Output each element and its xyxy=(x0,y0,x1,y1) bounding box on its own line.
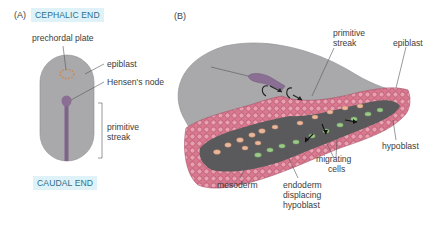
label-mesoderm: mesoderm xyxy=(217,180,258,190)
label-endoderm-1: endoderm xyxy=(283,180,322,190)
label-primitive-streak-b-2: streak xyxy=(333,38,356,48)
label-hypoblast: hypoblast xyxy=(382,141,419,151)
label-endoderm-3: hypoblast xyxy=(283,200,320,210)
label-migrating-cells-1: migrating xyxy=(316,154,351,164)
label-migrating-cells-2: cells xyxy=(328,164,345,174)
label-epiblast-b: epiblast xyxy=(393,38,423,48)
label-endoderm-2: displacing xyxy=(283,190,321,200)
label-primitive-streak-b-1: primitive xyxy=(333,28,365,38)
